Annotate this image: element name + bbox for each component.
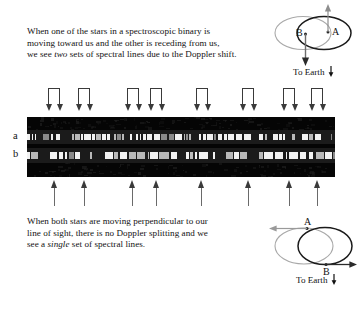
plate-grain — [60, 127, 63, 129]
marker-stem — [48, 88, 49, 105]
spectrum-row-label-b: b — [13, 148, 18, 159]
up-arrow-icon — [51, 180, 57, 188]
spectral-line — [275, 152, 283, 159]
plate-grain — [261, 175, 266, 176]
down-arrow-icon — [136, 104, 142, 111]
spectral-line — [107, 134, 109, 140]
down-arrow-icon — [205, 104, 211, 111]
plate-grain — [321, 170, 323, 173]
plate-grain — [83, 128, 85, 129]
plate-grain — [114, 120, 119, 121]
plate-grain — [39, 171, 41, 172]
star-b-label-top: B — [296, 27, 303, 38]
up-arrow-icon — [314, 180, 320, 188]
top-caption-line-1: When one of the stars in a spectroscopic… — [27, 26, 237, 38]
plate-grain — [245, 165, 247, 168]
plate-grain — [113, 174, 116, 175]
spectral-line — [190, 152, 193, 159]
plate-grain — [58, 166, 62, 168]
plate-grain — [206, 164, 208, 167]
to-earth-label-top: To Earth — [293, 66, 335, 77]
marker-stem — [161, 88, 162, 105]
plate-grain — [52, 171, 57, 173]
plate-grain — [277, 164, 279, 166]
plate-grain — [84, 168, 89, 170]
plate-grain — [246, 171, 247, 172]
single-line-markers — [0, 180, 359, 206]
plate-grain — [309, 167, 313, 169]
spectral-line — [35, 134, 36, 140]
plate-grain — [154, 165, 158, 166]
plate-grain — [175, 170, 178, 172]
spectral-line — [236, 134, 242, 140]
spectral-line — [147, 134, 152, 140]
spectral-line — [148, 152, 149, 159]
plate-grain — [99, 173, 104, 174]
star-a-label-top: A — [332, 26, 340, 37]
spectral-line — [137, 152, 145, 159]
plate-grain — [309, 119, 312, 121]
plate-grain — [234, 169, 238, 171]
plate-grain — [89, 176, 92, 177]
plate-grain — [325, 120, 327, 121]
down-arrow-icon — [125, 104, 131, 111]
plate-grain — [253, 118, 256, 120]
spectral-line — [292, 134, 294, 140]
spectral-line — [114, 134, 116, 140]
plate-grain — [93, 172, 97, 174]
plate-grain — [177, 120, 181, 121]
marker-stem — [283, 88, 284, 105]
marker-stem — [242, 88, 243, 105]
plate-grain — [278, 129, 280, 130]
spectral-line — [316, 152, 324, 159]
spectral-line — [31, 152, 38, 159]
spectral-line — [50, 152, 58, 159]
plate-grain — [182, 165, 183, 166]
plate-grain — [124, 127, 127, 129]
plate-grain — [66, 163, 70, 164]
plate-grain — [286, 124, 290, 127]
spectral-line — [59, 152, 63, 159]
plate-grain — [78, 127, 81, 128]
plate-grain — [128, 175, 130, 176]
marker-bracket — [150, 88, 161, 89]
figure-root: When one of the stars in a spectroscopic… — [0, 0, 359, 309]
plate-grain — [126, 119, 127, 121]
single-line-marker — [153, 180, 160, 206]
down-arrow-icon — [281, 104, 287, 111]
plate-grain — [312, 172, 316, 175]
spectral-line — [228, 134, 234, 140]
spectral-line — [43, 134, 49, 140]
spectral-line — [84, 134, 91, 140]
plate-grain — [219, 123, 221, 124]
plate-grain — [56, 121, 58, 124]
plate-grain — [236, 129, 237, 131]
top-caption-emphasis-two: two — [54, 49, 67, 59]
plate-grain — [231, 175, 236, 177]
spectrum-strip-b — [27, 152, 335, 159]
plate-grain — [98, 123, 99, 125]
plate-grain — [329, 126, 332, 127]
down-arrow-icon — [320, 104, 326, 111]
spectral-line — [129, 152, 137, 159]
plate-grain — [110, 127, 115, 129]
spectral-line — [300, 152, 307, 159]
spectral-line — [130, 134, 132, 140]
spectral-line — [259, 152, 264, 159]
plate-grain — [50, 175, 52, 176]
plate-grain — [257, 124, 261, 126]
spectral-line — [81, 134, 83, 140]
plate-grain — [310, 128, 312, 129]
plate-grain — [51, 118, 55, 121]
spectral-line — [154, 134, 160, 140]
orbit-ellipse-b-top — [275, 17, 331, 50]
plate-grain — [248, 120, 251, 123]
plate-grain — [236, 122, 238, 123]
spectral-line — [90, 152, 92, 159]
plate-grain — [50, 125, 52, 126]
plate-grain — [219, 126, 221, 128]
plate-grain — [261, 166, 264, 167]
down-arrow-icon — [159, 104, 165, 111]
marker-stem — [196, 88, 197, 105]
single-line-marker — [245, 180, 252, 206]
